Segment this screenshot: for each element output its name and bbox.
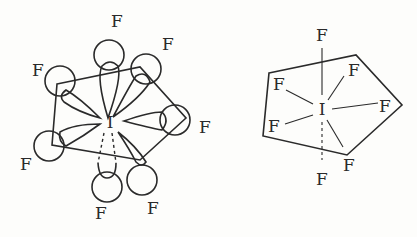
fluorine-label: F: [273, 74, 285, 94]
fluorine-label: F: [147, 198, 159, 218]
iodine-label: I: [107, 112, 114, 132]
fluorine-label: F: [348, 60, 360, 80]
fluorine-label: F: [111, 11, 123, 31]
fluorine-label: F: [20, 154, 32, 174]
iodine-label: I: [319, 99, 326, 119]
fluorine-label: F: [95, 203, 107, 223]
fluorine-label: F: [268, 116, 280, 136]
fluorine-label: F: [379, 96, 391, 116]
orbital-diagram: I F F F F F F F: [20, 11, 211, 223]
fluorine-label: F: [343, 155, 355, 175]
fluorine-label: F: [162, 34, 174, 54]
if7-diagram: I F F F F F F F I F F F F F F F: [0, 0, 417, 237]
fluorine-label: F: [316, 169, 328, 189]
fluorine-label: F: [32, 60, 44, 80]
bond-line-diagram: I F F F F F F F: [263, 25, 402, 189]
fluorine-label: F: [199, 117, 211, 137]
fluorine-label: F: [316, 25, 328, 45]
